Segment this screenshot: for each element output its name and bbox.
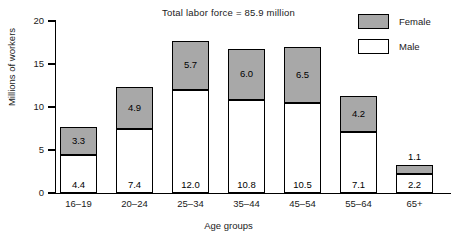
bar-segment-female[interactable]: 3.3 [60, 127, 97, 155]
bar-segment-female[interactable]: 5.7 [172, 41, 209, 90]
y-axis-title: Millions of workers [6, 7, 20, 127]
bar-value-label-male: 2.2 [397, 180, 432, 190]
bar-segment-male[interactable]: 2.2 [396, 174, 433, 193]
bar-value-label-male: 12.0 [173, 180, 208, 190]
y-axis-tick-label: 15 [18, 59, 44, 69]
bar-segment-female[interactable]: 4.2 [340, 96, 377, 132]
bar-segment-male[interactable]: 7.4 [116, 129, 153, 193]
bar-value-label-female: 4.2 [341, 109, 376, 119]
bar-value-label-male: 10.5 [285, 180, 320, 190]
x-axis-title: Age groups [0, 220, 457, 231]
y-axis-tick-label: 20 [18, 16, 44, 26]
y-axis-tick-label: 0 [18, 188, 44, 198]
bar-segment-female[interactable]: 6.5 [284, 47, 321, 103]
bar-group[interactable]: 10.86.0 [228, 49, 265, 193]
x-axis-tick-label: 65+ [386, 198, 443, 209]
x-axis-line [55, 193, 451, 194]
bar-value-label-female: 1.1 [396, 152, 433, 162]
bar-segment-male[interactable]: 10.5 [284, 103, 321, 193]
chart-screenshot: Total labor force = 85.9 million Female … [0, 0, 457, 237]
x-axis-tick-label: 35–44 [218, 198, 275, 209]
bar-group[interactable]: 2.21.1 [396, 165, 433, 193]
bar-value-label-male: 7.1 [341, 180, 376, 190]
bar-value-label-female: 6.5 [285, 70, 320, 80]
bar-value-label-male: 10.8 [229, 180, 264, 190]
bar-value-label-male: 7.4 [117, 180, 152, 190]
x-axis-tick-label: 20–24 [106, 198, 163, 209]
y-axis-tick-label: 5 [18, 145, 44, 155]
bar-value-label-female: 6.0 [229, 69, 264, 79]
bar-segment-male[interactable]: 12.0 [172, 90, 209, 193]
bar-value-label-male: 4.4 [61, 180, 96, 190]
bar-group[interactable]: 7.44.9 [116, 87, 153, 193]
bar-segment-female[interactable]: 6.0 [228, 49, 265, 101]
bar-segment-male[interactable]: 4.4 [60, 155, 97, 193]
bar-group[interactable]: 4.43.3 [60, 127, 97, 193]
bar-group[interactable]: 7.14.2 [340, 96, 377, 193]
plot-area: 4.43.37.44.912.05.710.86.010.56.57.14.22… [55, 21, 450, 193]
x-axis-tick-label: 25–34 [162, 198, 219, 209]
x-axis-tick-label: 16–19 [50, 198, 107, 209]
bar-value-label-female: 4.9 [117, 103, 152, 113]
bar-segment-male[interactable]: 10.8 [228, 100, 265, 193]
bar-value-label-female: 3.3 [61, 136, 96, 146]
x-axis-tick-label: 55–64 [330, 198, 387, 209]
bar-group[interactable]: 10.56.5 [284, 47, 321, 193]
bar-segment-female[interactable] [396, 165, 433, 174]
bar-segment-female[interactable]: 4.9 [116, 87, 153, 129]
bar-segment-male[interactable]: 7.1 [340, 132, 377, 193]
bar-value-label-female: 5.7 [173, 60, 208, 70]
x-axis-tick-label: 45–54 [274, 198, 331, 209]
y-axis-tick-label: 10 [18, 102, 44, 112]
bar-group[interactable]: 12.05.7 [172, 41, 209, 193]
